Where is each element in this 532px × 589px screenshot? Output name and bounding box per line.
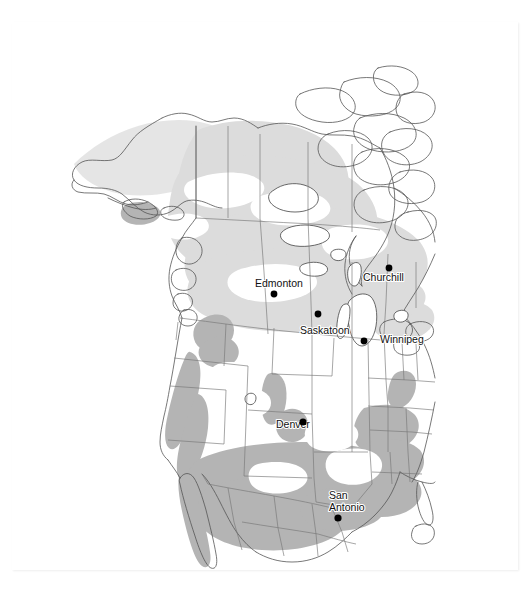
city-dot-saskatoon[interactable] [315,311,322,318]
city-label-churchill: Churchill [363,271,404,283]
city-label-line: Saskatoon [300,324,350,336]
city-label-line: Churchill [363,271,404,283]
figure-root: EdmontonChurchillSaskatoonWinnipegDenver… [0,0,532,589]
city-label-line: Winnipeg [380,333,424,345]
city-label-line: Antonio [329,501,365,513]
map-canvas: EdmontonChurchillSaskatoonWinnipegDenver… [12,22,518,570]
city-label-winnipeg: Winnipeg [380,333,424,345]
city-dot-edmonton[interactable] [271,291,278,298]
city-label-line: Edmonton [255,277,303,289]
city-dot-denver[interactable] [299,418,306,425]
city-label-saskatoon: Saskatoon [300,324,350,336]
city-dot-san-antonio[interactable] [334,514,341,521]
city-marker-denver[interactable]: Denver [276,418,310,430]
map-svg: EdmontonChurchillSaskatoonWinnipegDenver… [12,22,518,570]
city-dot-winnipeg[interactable] [361,338,368,345]
city-dot-churchill[interactable] [386,265,393,272]
city-label-line: San [329,489,348,501]
city-label-edmonton: Edmonton [255,277,303,289]
